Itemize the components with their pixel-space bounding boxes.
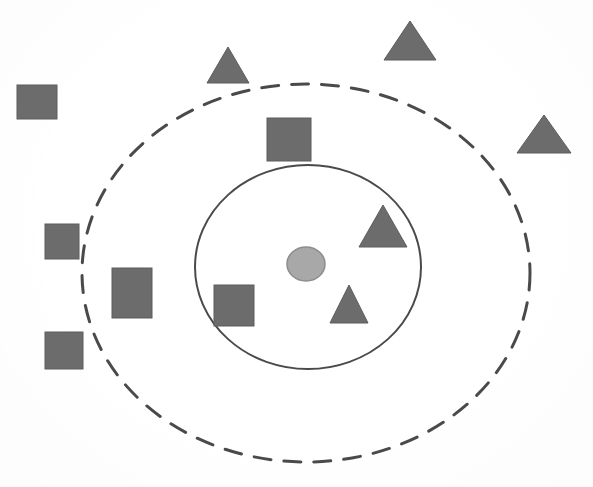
diagram-background — [0, 0, 593, 487]
square-outer-topleft — [17, 85, 57, 119]
square-outer-left-lower — [45, 332, 83, 369]
square-between-top — [267, 118, 311, 161]
square-between-left — [112, 268, 152, 318]
square-inner-left — [214, 285, 254, 326]
diagram-svg — [0, 0, 593, 487]
square-outer-left-upper — [45, 224, 79, 259]
center-node — [287, 247, 325, 281]
center-node-layer — [287, 247, 325, 281]
figure-canvas — [0, 0, 593, 487]
